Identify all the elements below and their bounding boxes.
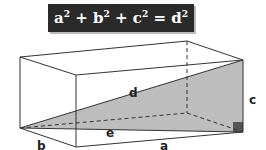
edge-top-right-depth [187, 41, 243, 60]
right-angle-marker [233, 122, 243, 132]
label-c: c [249, 93, 256, 107]
box-diagram: d e c a b [0, 0, 266, 150]
label-a: a [160, 139, 168, 150]
label-d: d [129, 86, 138, 100]
edge-top-left-depth [20, 57, 76, 75]
label-b: b [37, 139, 46, 150]
edge-back-top [20, 41, 187, 57]
label-e: e [106, 126, 114, 140]
edge-bottom-left-depth [20, 128, 76, 147]
